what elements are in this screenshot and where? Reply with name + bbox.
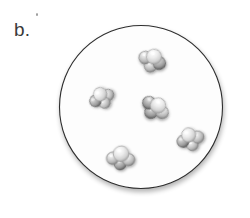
container-circle (60, 26, 223, 189)
figure-panel: b. (0, 0, 250, 218)
molecule-container-diagram (0, 0, 250, 218)
